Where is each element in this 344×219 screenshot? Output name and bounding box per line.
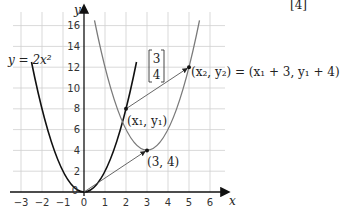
- x-axis-label: x: [229, 194, 236, 208]
- svg-text:−3: −3: [14, 197, 29, 208]
- vector-arrow-origin: [84, 152, 145, 193]
- svg-text:16: 16: [67, 20, 80, 31]
- point-vertex: [145, 148, 149, 152]
- x-tick-labels: −3 −2 −1 0 1 2 3 4 5 6: [14, 197, 214, 208]
- svg-text:4: 4: [165, 197, 171, 208]
- svg-text:−2: −2: [35, 197, 50, 208]
- vector-bottom: 4: [153, 68, 161, 82]
- svg-text:3: 3: [144, 197, 150, 208]
- svg-text:6: 6: [74, 124, 80, 135]
- svg-text:10: 10: [67, 83, 80, 94]
- graph: 3 4 [4] y = 2x² (x₁, y₁) (3, 4) (x₂, y₂)…: [0, 0, 344, 219]
- svg-text:0: 0: [81, 197, 87, 208]
- svg-text:2: 2: [74, 166, 80, 177]
- label-x2y2: (x₂, y₂) = (x₁ + 3, y₁ + 4): [191, 65, 340, 79]
- grid: [13, 12, 225, 192]
- y-tick-labels: 2 4 6 8 10 12 14 16: [67, 20, 80, 177]
- curve-label: y = 2x²: [7, 53, 52, 67]
- y-zero-label: 0: [72, 185, 78, 196]
- svg-text:5: 5: [186, 197, 192, 208]
- partial-vector-top-right: [4]: [290, 0, 307, 12]
- svg-text:8: 8: [74, 103, 80, 114]
- label-x1y1: (x₁, y₁): [127, 114, 167, 128]
- svg-text:1: 1: [102, 197, 108, 208]
- label-vertex: (3, 4): [147, 155, 179, 169]
- point-x1y1: [124, 107, 128, 111]
- vector-top: 3: [153, 52, 161, 66]
- svg-text:4: 4: [74, 145, 80, 156]
- svg-text:−1: −1: [56, 197, 71, 208]
- svg-text:12: 12: [67, 62, 80, 73]
- svg-text:14: 14: [67, 41, 80, 52]
- y-axis-label: y: [73, 3, 81, 17]
- svg-text:2: 2: [123, 197, 129, 208]
- svg-text:6: 6: [207, 197, 213, 208]
